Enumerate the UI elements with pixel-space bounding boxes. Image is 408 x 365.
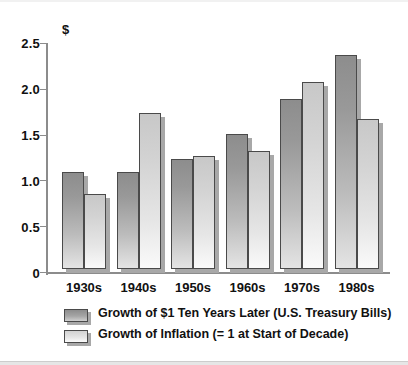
bar-series-b — [357, 119, 383, 273]
y-tick-2-0 — [40, 89, 47, 90]
bar-group — [335, 41, 379, 273]
y-axis-title: $ — [62, 22, 69, 37]
bar-rect — [139, 113, 161, 269]
bar-series-b — [193, 156, 219, 273]
bar-rect — [117, 172, 139, 269]
bar-rect — [193, 156, 215, 269]
legend-swatch-series-a — [64, 309, 88, 322]
y-tick-label-0-5: 0.5 — [4, 220, 40, 235]
y-tick-label-1-5: 1.5 — [4, 128, 40, 143]
bar-rect — [171, 159, 193, 269]
y-tick-label-0: 0 — [4, 266, 40, 281]
y-tick-0 — [40, 272, 47, 273]
legend-item-treasury-bills: Growth of $1 Ten Years Later (U.S. Treas… — [64, 306, 394, 327]
y-tick-2-5 — [40, 43, 47, 44]
legend-label-series-a: Growth of $1 Ten Years Later (U.S. Treas… — [98, 306, 391, 320]
chart-legend: Growth of $1 Ten Years Later (U.S. Treas… — [64, 306, 394, 348]
bar-rect — [248, 151, 270, 269]
y-tick-label-2-5: 2.5 — [4, 36, 40, 51]
bar-chart-figure: $ 2.5 2.0 1.5 1.0 0.5 0 1930s1940s1950s1… — [0, 0, 408, 365]
bar-group — [117, 41, 161, 273]
y-tick-0-5 — [40, 226, 47, 227]
bar-series-b — [84, 194, 110, 273]
bar-group — [280, 41, 324, 273]
bar-series-b — [248, 151, 274, 273]
legend-label-series-b: Growth of Inflation (= 1 at Start of Dec… — [98, 327, 348, 341]
top-divider — [0, 0, 408, 2]
y-tick-1-5 — [40, 135, 47, 136]
bar-rect — [62, 172, 84, 269]
y-tick-label-1-0: 1.0 — [4, 174, 40, 189]
bar-rect — [335, 55, 357, 269]
bar-rect — [280, 99, 302, 269]
bottom-divider — [0, 361, 408, 365]
y-tick-1-0 — [40, 180, 47, 181]
bar-group — [62, 41, 106, 273]
bar-group — [226, 41, 270, 273]
y-axis-line — [46, 43, 48, 275]
bar-series-b — [139, 113, 165, 273]
bar-rect — [357, 119, 379, 269]
bar-group — [171, 41, 215, 273]
bar-rect — [226, 134, 248, 269]
legend-swatch-series-b — [64, 330, 88, 343]
bar-rect — [302, 82, 324, 269]
plot-area: 1930s1940s1950s1960s1970s1980s — [46, 40, 390, 275]
legend-item-inflation: Growth of Inflation (= 1 at Start of Dec… — [64, 327, 394, 348]
bar-series-b — [302, 82, 328, 273]
bar-rect — [84, 194, 106, 269]
x-tick-label-1980s: 1980s — [323, 280, 391, 295]
y-tick-label-2-0: 2.0 — [4, 82, 40, 97]
